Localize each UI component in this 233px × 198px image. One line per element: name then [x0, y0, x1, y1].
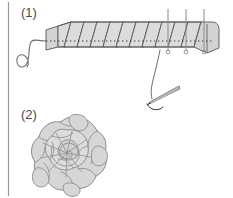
ribbon-pleats [58, 22, 203, 47]
figure-illustration [0, 0, 233, 198]
instruction-figure: (1) (2) [0, 0, 233, 198]
ribbon-left-tab [46, 26, 58, 50]
step-label-1: (1) [21, 5, 37, 20]
step-label-2: (2) [21, 107, 37, 122]
rose-tail-petal-right [91, 146, 107, 166]
